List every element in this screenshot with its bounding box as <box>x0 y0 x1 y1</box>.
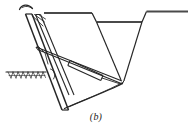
figure-caption: (b) <box>0 111 192 123</box>
figure-root: (b) <box>0 0 192 135</box>
